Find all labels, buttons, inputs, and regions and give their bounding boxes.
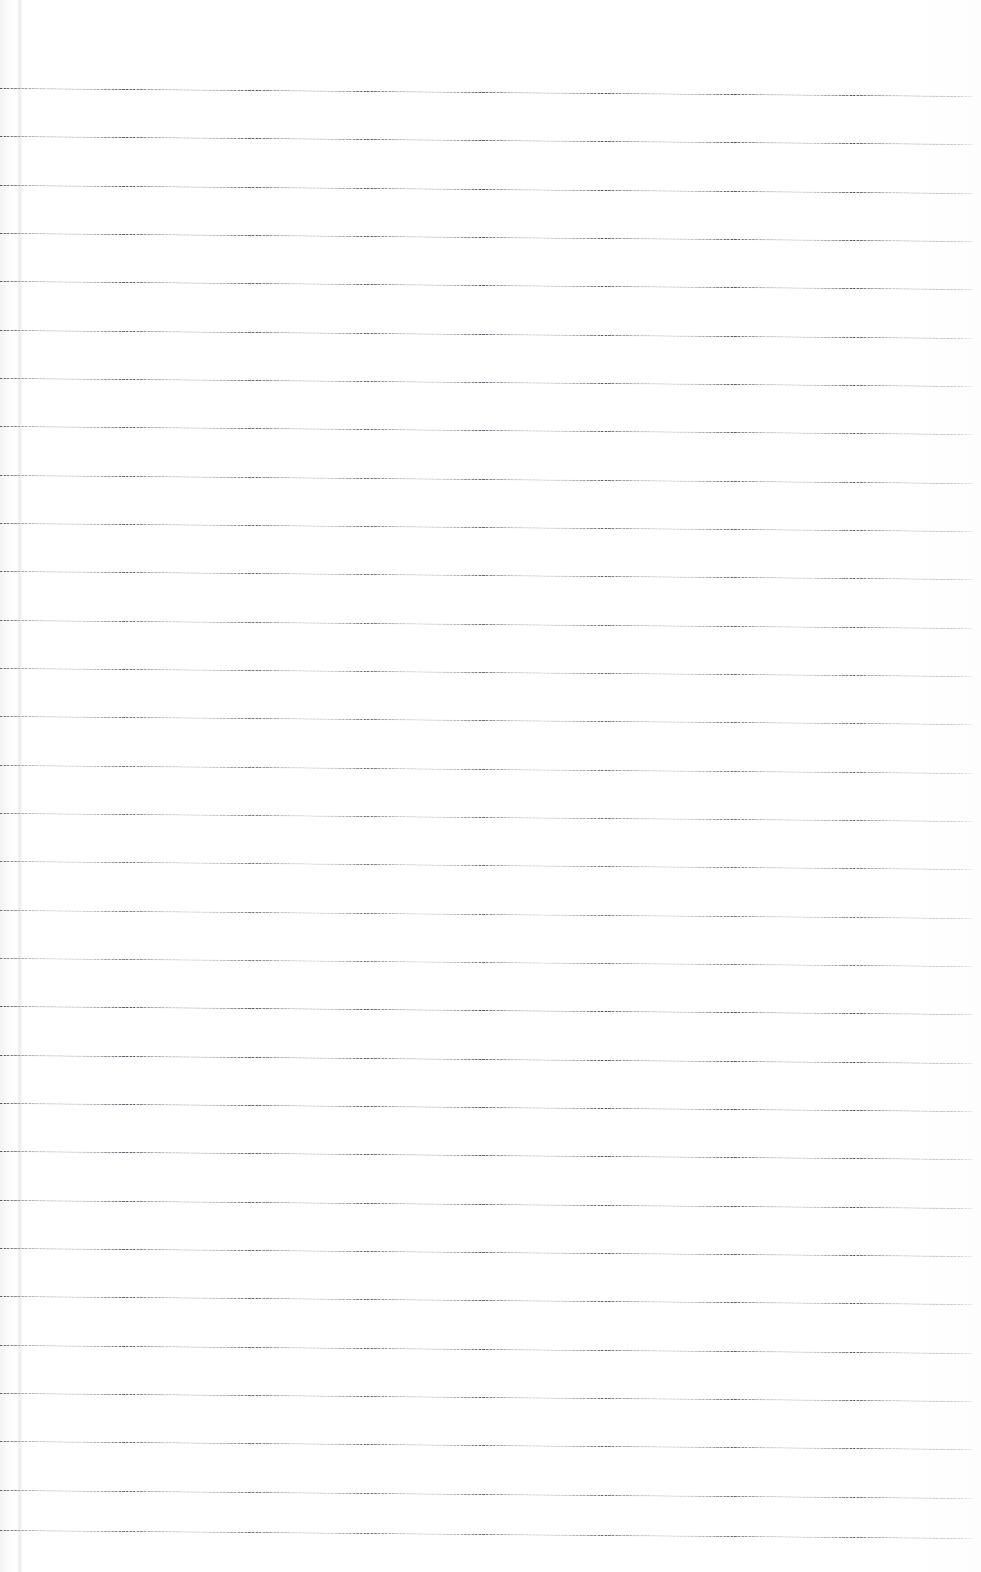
ruled-line <box>0 668 976 677</box>
ruled-line <box>0 136 976 145</box>
ruled-line <box>0 1530 976 1539</box>
ruled-line <box>0 620 976 629</box>
ruled-line <box>0 910 976 919</box>
ruled-line <box>0 716 976 725</box>
paper-surface <box>0 0 981 1572</box>
ruled-line <box>0 1441 976 1450</box>
ruled-line <box>0 1200 976 1209</box>
ruled-line <box>0 813 976 822</box>
ruled-line <box>0 378 976 387</box>
left-margin-crease-shadow <box>17 0 24 1572</box>
ruled-line <box>0 1345 976 1354</box>
ruled-line <box>0 861 976 870</box>
ruled-line <box>0 1103 976 1112</box>
ruled-line <box>0 765 976 774</box>
ruled-line <box>0 1248 976 1257</box>
ruled-line <box>0 426 976 435</box>
ruled-line <box>0 88 976 97</box>
ruled-line <box>0 1055 976 1064</box>
scanned-page <box>0 0 981 1572</box>
ruled-line <box>0 523 976 532</box>
ruled-line <box>0 1490 976 1499</box>
ruled-lines-layer <box>0 0 981 1572</box>
ruled-line <box>0 330 976 339</box>
ruled-line <box>0 475 976 484</box>
ruled-line <box>0 281 976 290</box>
ruled-line <box>0 571 976 580</box>
ruled-line <box>0 1393 976 1402</box>
ruled-line <box>0 185 976 194</box>
ruled-line <box>0 1296 976 1305</box>
ruled-line <box>0 958 976 967</box>
ruled-line <box>0 1006 976 1015</box>
ruled-line <box>0 233 976 242</box>
ruled-line <box>0 1151 976 1160</box>
